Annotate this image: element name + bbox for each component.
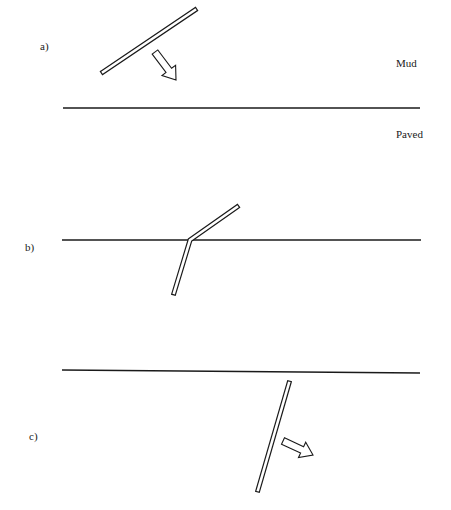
panel-a-rod-core [103,10,195,72]
panel-c-direction-arrow-icon [282,438,314,458]
panel-a-direction-arrow-icon [152,50,176,80]
panel-c-rod-core [258,383,289,490]
panel-b-rod [174,207,237,293]
panel-b-rod-core [174,207,237,293]
diagram-drawing [0,0,451,510]
panel-c-boundary-line [62,370,420,373]
